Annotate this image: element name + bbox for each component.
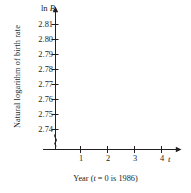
- x-axis-caption-before: Year (: [73, 174, 93, 183]
- y-axis-head-label: ln B: [25, 3, 55, 13]
- y-axis-head-label-prefix: ln: [41, 3, 50, 13]
- y-axis-head-label-variable: B: [50, 3, 55, 13]
- x-tick-label: 4: [155, 154, 169, 163]
- y-tick-label: 2.76: [22, 95, 53, 104]
- x-tick-label: 3: [128, 154, 142, 163]
- x-axis-caption: Year (t = 0 is 1986): [0, 174, 191, 183]
- y-axis-title: Natural logarithm of birth rate: [13, 7, 22, 147]
- y-tick-label: 2.79: [22, 50, 53, 59]
- x-tick-label: 1: [74, 154, 88, 163]
- y-tick-label: 2.80: [22, 35, 53, 44]
- x-tick-label: 2: [101, 154, 115, 163]
- y-tick-label: 2.77: [22, 80, 53, 89]
- x-axis-caption-after: = 0 is 1986): [96, 174, 138, 183]
- x-axis-arrowhead: [176, 147, 182, 152]
- y-tick-label: 2.75: [22, 110, 53, 119]
- y-tick-label: 2.78: [22, 65, 53, 74]
- y-tick-label: 2.81: [22, 20, 53, 29]
- chart-figure: Natural logarithm of birth rate ln B t 2…: [0, 0, 191, 193]
- y-tick-label: 2.74: [22, 125, 53, 134]
